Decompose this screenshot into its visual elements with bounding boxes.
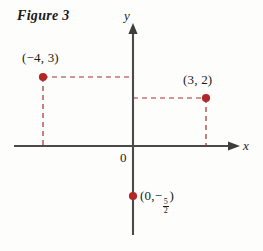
x-axis-label: x [243,138,249,154]
fraction-numerator: 5 [163,198,169,206]
fraction-denominator: 2 [163,206,169,215]
data-point-c-label-prefix: (0, [140,188,155,203]
y-axis-arrowhead [128,23,137,34]
figure-3-coordinate-plane: Figure 3 y x 0 (−4, 3) (3, 2) (0,−52) [0,0,263,251]
data-point-a [39,73,47,81]
data-point-c-label-minus: − [155,188,163,203]
x-axis-arrowhead [228,141,240,150]
data-point-c-label: (0,−52) [140,188,174,215]
data-point-a-label: (−4, 3) [22,50,59,66]
figure-caption: Figure 3 [17,8,70,24]
coordinate-plane-graphic [0,0,263,251]
y-axis-label: y [124,8,130,24]
data-point-b-label: (3, 2) [183,72,212,88]
data-point-c [129,192,137,200]
origin-label: 0 [120,150,127,166]
data-point-b [202,94,210,102]
data-point-c-label-suffix: ) [169,188,174,203]
fraction-five-halves: 52 [163,198,169,215]
